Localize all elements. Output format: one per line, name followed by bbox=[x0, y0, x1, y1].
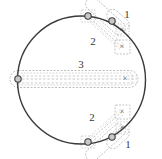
group-label-middle-3: 3 bbox=[78, 58, 84, 70]
group-label-bottom-1: 1 bbox=[125, 138, 131, 150]
x-point-marker[interactable]: × bbox=[123, 74, 128, 83]
x-point-marker[interactable]: × bbox=[120, 42, 125, 51]
circle-point-marker[interactable] bbox=[109, 134, 115, 140]
x-point-marker[interactable]: × bbox=[120, 107, 125, 116]
circle-point-marker[interactable] bbox=[85, 139, 91, 145]
circle-point-marker[interactable] bbox=[15, 76, 21, 82]
circle-point-marker[interactable] bbox=[85, 13, 91, 19]
x-markers-layer: × × × × × bbox=[120, 25, 128, 132]
connector-middle-3 bbox=[18, 76, 137, 83]
x-point-marker[interactable]: × bbox=[120, 25, 125, 34]
circle-point-marker[interactable] bbox=[109, 18, 115, 24]
connector-line bbox=[111, 126, 121, 135]
group-label-top-1: 1 bbox=[124, 8, 130, 20]
figure-container: × × × × × 1 2 3 2 1 bbox=[0, 0, 162, 159]
group-label-top-2: 2 bbox=[90, 35, 96, 47]
x-point-marker[interactable]: × bbox=[120, 123, 125, 132]
group-label-bottom-2: 2 bbox=[89, 111, 95, 123]
circle-correspondence-diagram: × × × × × 1 2 3 2 1 bbox=[0, 0, 162, 159]
